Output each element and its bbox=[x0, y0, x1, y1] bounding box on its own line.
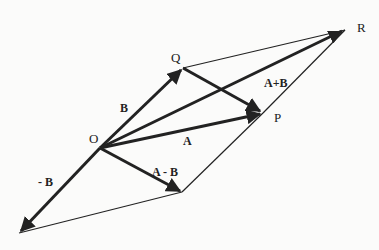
point-label-Q: Q bbox=[171, 50, 181, 65]
vector-label-A-minus-B: A - B bbox=[152, 165, 178, 179]
vector-B bbox=[100, 70, 181, 148]
edge-Q-R bbox=[183, 30, 345, 68]
vector-label-minus-B: - B bbox=[38, 175, 53, 189]
point-label-P: P bbox=[274, 110, 281, 125]
vector-A bbox=[100, 114, 260, 148]
edge-AminusB-P bbox=[182, 113, 263, 192]
vector-diagram: O Q P R B A A+B - B A - B bbox=[0, 0, 379, 250]
point-label-O: O bbox=[89, 131, 98, 146]
edge-P-R bbox=[263, 30, 345, 113]
vector-minus-B bbox=[21, 148, 100, 231]
vector-label-B: B bbox=[120, 101, 128, 115]
edge-negB-AminusB bbox=[19, 192, 182, 233]
vector-label-A: A bbox=[183, 134, 192, 148]
point-label-R: R bbox=[357, 20, 366, 35]
vector-label-A-plus-B: A+B bbox=[264, 76, 288, 90]
vector-Q-to-P bbox=[183, 68, 260, 111]
